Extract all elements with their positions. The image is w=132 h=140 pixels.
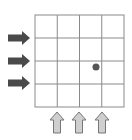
up-arrows-group	[50, 112, 109, 133]
up-arrow-icon	[95, 112, 109, 133]
right-arrows-group	[8, 31, 30, 90]
dot-marker	[93, 64, 100, 71]
right-arrow-icon	[8, 76, 30, 90]
right-arrow-icon	[8, 31, 30, 45]
right-arrow-icon	[8, 54, 30, 68]
grid-diagram	[0, 0, 132, 140]
grid-4x4	[35, 15, 124, 107]
up-arrow-icon	[72, 112, 86, 133]
up-arrow-icon	[50, 112, 64, 133]
